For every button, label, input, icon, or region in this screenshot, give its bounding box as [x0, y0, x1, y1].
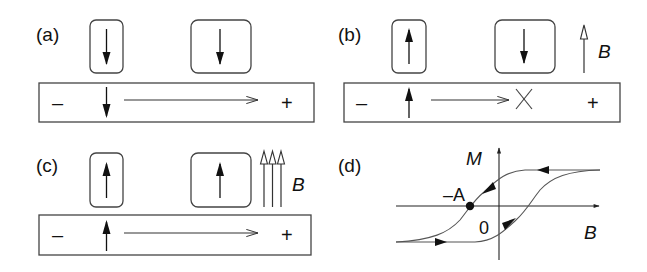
- hollow-arrowhead-icon: [261, 151, 268, 164]
- point-a-marker: [466, 202, 474, 210]
- large-magnet-box: [495, 20, 555, 73]
- panel-a: (a) – +: [36, 20, 314, 122]
- large-magnet-box: [191, 153, 251, 207]
- small-magnet-box: [90, 153, 123, 207]
- positive-terminal: +: [587, 92, 599, 114]
- blocked-cross-icon: [516, 89, 532, 109]
- small-magnet-box: [90, 20, 123, 73]
- x-axis-label: B: [584, 222, 597, 243]
- hollow-arrowhead-icon: [581, 25, 588, 39]
- applied-field-arrow: B: [581, 25, 612, 73]
- panel-d: (d) M B 0 –A: [338, 148, 600, 260]
- origin-label: 0: [479, 218, 489, 238]
- channel-bar: – +: [39, 83, 314, 122]
- positive-terminal: +: [281, 224, 293, 246]
- field-label: B: [292, 174, 305, 195]
- hollow-arrowhead-icon: [278, 151, 285, 164]
- positive-terminal: +: [281, 92, 293, 114]
- hollow-arrowhead-icon: [269, 151, 276, 164]
- channel-bar: – +: [39, 215, 311, 255]
- point-a-label: –A: [443, 185, 465, 205]
- panel-c-label: (c): [36, 155, 58, 176]
- negative-terminal: –: [52, 92, 64, 114]
- strong-applied-field-arrows: B: [261, 151, 306, 207]
- figure-canvas: (a) – + (b): [0, 0, 647, 272]
- y-axis-label: M: [466, 148, 482, 169]
- negative-terminal: –: [52, 224, 64, 246]
- negative-terminal: –: [356, 92, 368, 114]
- panel-b-label: (b): [338, 24, 361, 45]
- direction-arrow-right-icon: [435, 238, 447, 246]
- direction-arrow-left-icon: [537, 166, 549, 174]
- panel-c: (c) B – +: [36, 151, 311, 255]
- small-magnet-box: [392, 20, 426, 73]
- channel-bar: – +: [344, 83, 620, 122]
- field-label: B: [598, 41, 611, 62]
- direction-arrow-up-right-icon: [502, 218, 516, 230]
- panel-b: (b) B – +: [338, 20, 620, 122]
- panel-d-label: (d): [338, 155, 361, 176]
- panel-a-label: (a): [36, 24, 59, 45]
- large-magnet-box: [191, 20, 251, 73]
